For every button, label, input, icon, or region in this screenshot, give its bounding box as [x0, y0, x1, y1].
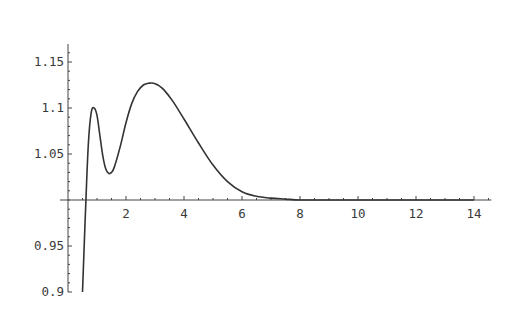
y-tick-label: 0.95: [34, 238, 64, 253]
plot-area: [83, 83, 475, 292]
y-tick-label: 1.15: [34, 54, 64, 69]
series-line: [83, 83, 475, 292]
x-tick-label: 10: [350, 206, 365, 221]
line-chart: 2468101214 0.90.951.051.11.15: [0, 0, 512, 315]
y-tick-label: 1.05: [34, 146, 64, 161]
x-tick-label: 14: [466, 206, 481, 221]
y-tick-label: 1.1: [41, 100, 64, 115]
y-tick-label: 0.9: [41, 284, 64, 299]
x-tick-label: 2: [122, 206, 130, 221]
x-tick-label: 4: [180, 206, 188, 221]
y-axis: 0.90.951.051.11.15: [34, 44, 72, 299]
x-tick-label: 8: [296, 206, 304, 221]
x-tick-label: 6: [238, 206, 246, 221]
x-tick-label: 12: [408, 206, 423, 221]
